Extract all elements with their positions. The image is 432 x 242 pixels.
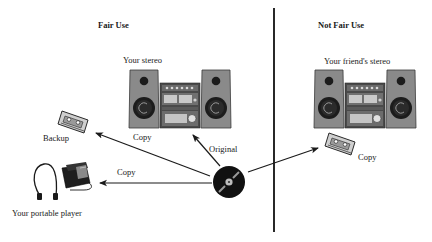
portable-player-label: Your portable player [12,208,82,218]
backup-cassette-icon [58,111,88,133]
friend-stereo [314,70,416,128]
your-stereo [129,70,231,128]
your-stereo-label: Your stereo [123,55,162,65]
arrow-label-copy-portable: Copy [117,167,135,177]
stereo-unit [345,83,385,128]
arrow-to-backup [96,133,210,176]
stereo-unit [160,83,200,128]
arrow-to-friend-cassette [248,148,318,172]
backup-label: Backup [43,133,69,143]
arrow-label-original: Original [209,144,237,154]
right-speaker [386,70,416,128]
section-title-fair-use: Fair Use [98,20,129,30]
portable-player-icon [34,162,91,200]
friend-cassette-icon [325,133,355,155]
right-speaker [201,70,231,128]
friend-stereo-label: Your friend's stereo [324,56,390,66]
left-speaker [314,70,344,128]
arrow-label-copy-friend: Copy [358,152,376,162]
original-record-icon [213,166,245,198]
section-title-not-fair-use: Not Fair Use [318,20,364,30]
arrow-label-copy-backup: Copy [133,132,151,142]
left-speaker [129,70,159,128]
diagram-canvas [0,0,432,242]
